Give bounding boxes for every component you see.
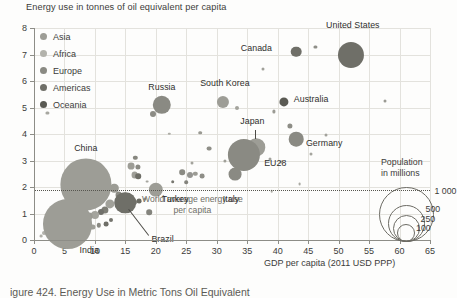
bubble-point[interactable]	[272, 110, 275, 113]
bubble-point[interactable]	[135, 165, 140, 170]
bubble-point[interactable]	[128, 162, 135, 169]
bubble-russia[interactable]	[153, 96, 171, 114]
label-canada: Canada	[241, 43, 272, 53]
bubble-south-korea[interactable]	[217, 96, 229, 108]
bubble-point[interactable]	[193, 172, 197, 176]
legend-item-europe[interactable]: Europe	[40, 62, 91, 79]
label-australia: Australia	[294, 94, 329, 104]
bubble-point[interactable]	[133, 156, 137, 160]
size-ring-label: 100	[416, 223, 431, 233]
size-ring-label: 1 000	[435, 186, 457, 196]
bubble-united-states[interactable]	[338, 41, 364, 67]
bubble-point[interactable]	[171, 180, 175, 184]
y-tick-label: 3	[22, 156, 27, 166]
legend-swatch-asia	[40, 33, 47, 40]
bubble-point[interactable]	[200, 174, 205, 179]
y-tick-label: 7	[22, 50, 27, 60]
label-brazil: Brazil	[151, 234, 173, 244]
bubble-canada[interactable]	[291, 47, 302, 58]
chart-title: Energy use in tonnes of oil equivalent p…	[26, 2, 227, 12]
bubble-point[interactable]	[235, 106, 239, 110]
y-tick-label: 2	[22, 182, 27, 192]
bubble-india[interactable]	[43, 199, 93, 249]
bubble-point[interactable]	[146, 180, 149, 183]
legend-swatch-africa	[40, 50, 47, 57]
bubble-point[interactable]	[262, 68, 265, 71]
legend-item-oceania[interactable]: Oceania	[40, 96, 91, 113]
bubble-point[interactable]	[179, 170, 185, 176]
plot-area: 05101520253035404550556065012345678World…	[34, 28, 430, 240]
label-turkey: Turkey	[162, 194, 189, 204]
bubble-australia[interactable]	[279, 98, 288, 107]
bubble-point[interactable]	[103, 222, 108, 227]
label-eu28: EU28	[264, 158, 286, 168]
label-japan: Japan	[240, 116, 264, 126]
x-tick-label: 40	[273, 246, 283, 256]
bubble-point[interactable]	[224, 159, 227, 162]
bubble-point[interactable]	[287, 123, 292, 128]
label-italy: Italy	[223, 194, 239, 204]
y-axis-line	[34, 28, 35, 241]
bubble-size-legend-title-line2: in millions	[381, 168, 452, 179]
world-average-reference-line	[34, 190, 430, 191]
label-china: China	[74, 143, 97, 153]
legend-label: Asia	[53, 32, 71, 42]
x-tick-label: 20	[151, 246, 161, 256]
bubble-point[interactable]	[185, 180, 189, 184]
x-tick-label: 0	[31, 246, 36, 256]
legend-item-americas[interactable]: Americas	[40, 79, 91, 96]
series-legend: AsiaAfricaEuropeAmericasOceania	[40, 28, 91, 113]
gridline-horizontal	[34, 134, 430, 135]
x-tick-label: 30	[212, 246, 222, 256]
legend-swatch-europe	[40, 67, 47, 74]
bubble-size-legend-title-line1: Population	[381, 157, 452, 168]
bubble-point[interactable]	[199, 131, 203, 135]
label-india: India	[80, 245, 99, 255]
x-tick-label: 45	[303, 246, 313, 256]
label-south-korea: South Korea	[200, 78, 249, 88]
bubble-point[interactable]	[135, 174, 141, 180]
bubble-point[interactable]	[325, 134, 328, 137]
bubble-point[interactable]	[96, 223, 100, 227]
bubble-point[interactable]	[191, 162, 194, 165]
label-united-states: United States	[326, 20, 379, 30]
legend-item-africa[interactable]: Africa	[40, 45, 91, 62]
bubble-italy[interactable]	[229, 167, 242, 180]
bubble-size-rings: 1 000500250100	[381, 186, 429, 241]
bubble-size-legend: Population in millions 1 000500250100	[381, 157, 452, 241]
label-germany: Germany	[306, 138, 343, 148]
legend-label: Africa	[53, 49, 76, 59]
legend-label: Oceania	[53, 100, 87, 110]
figure-caption: igure 424. Energy Use in Metric Tons Oil…	[10, 286, 250, 298]
bubble-germany[interactable]	[289, 132, 304, 147]
bubble-point[interactable]	[298, 183, 301, 186]
x-tick-label: 65	[425, 246, 435, 256]
legend-label: Americas	[53, 83, 91, 93]
bubble-point[interactable]	[309, 152, 312, 155]
y-tick-label: 4	[22, 129, 27, 139]
legend-swatch-oceania	[40, 101, 47, 108]
bubble-point[interactable]	[150, 111, 156, 117]
legend-item-asia[interactable]: Asia	[40, 28, 91, 45]
bubble-brazil[interactable]	[115, 192, 137, 214]
bubble-point[interactable]	[136, 198, 141, 203]
bubble-point[interactable]	[314, 45, 317, 48]
bubble-point[interactable]	[207, 146, 212, 151]
gridline-horizontal	[34, 108, 430, 109]
bubble-point[interactable]	[40, 235, 43, 238]
bubble-point[interactable]	[187, 172, 193, 178]
label-russia: Russia	[148, 82, 175, 92]
x-axis-title: GDP per capita (2011 USD PPP)	[264, 258, 395, 268]
bubble-point[interactable]	[383, 99, 386, 102]
gridline-horizontal	[34, 55, 430, 56]
x-tick-label: 35	[242, 246, 252, 256]
y-tick-label: 5	[22, 103, 27, 113]
size-ring-100	[397, 224, 415, 242]
x-tick-label: 55	[364, 246, 374, 256]
bubble-point[interactable]	[109, 218, 113, 222]
legend-swatch-americas	[40, 84, 47, 91]
legend-label: Europe	[53, 66, 82, 76]
y-tick-label: 0	[22, 235, 27, 245]
x-tick-label: 15	[120, 246, 130, 256]
